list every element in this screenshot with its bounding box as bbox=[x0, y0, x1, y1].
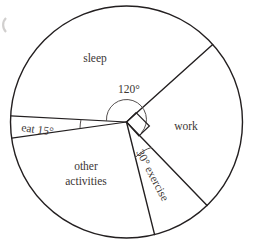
scan-artifact bbox=[3, 18, 6, 32]
slice-label-other-line2: activities bbox=[65, 175, 107, 187]
pie-chart-svg: sleep 120° work eat 15° other activities… bbox=[0, 0, 253, 250]
slice-label-work: work bbox=[174, 120, 198, 132]
angle-arc-15 bbox=[80, 120, 81, 129]
slice-label-eat: eat 15° bbox=[21, 121, 55, 137]
angle-label-120: 120° bbox=[118, 83, 140, 95]
slice-label-other-line1: other bbox=[74, 160, 98, 172]
slice-label-sleep: sleep bbox=[83, 52, 107, 65]
pie-chart-figure: sleep 120° work eat 15° other activities… bbox=[0, 0, 253, 250]
